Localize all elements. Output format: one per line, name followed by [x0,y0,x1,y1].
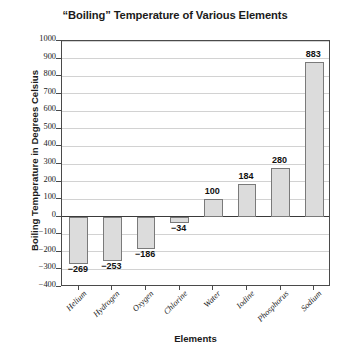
bar-value-label: 883 [290,49,336,59]
bar-chart-figure: “Boiling” Temperature of Various Element… [0,0,350,351]
gridline [62,146,329,147]
y-tick-label: −300 [16,262,56,271]
bar-value-label: −34 [156,223,202,233]
bar [271,168,290,217]
x-axis-title: Elements [61,333,330,344]
y-tick-label: 900 [16,52,56,61]
x-tick-mark [212,286,213,290]
bar [305,62,324,217]
y-tick-mark [56,58,61,59]
y-tick-mark [56,181,61,182]
y-tick-label: 100 [16,192,56,201]
y-tick-label: −100 [16,227,56,236]
gridline [62,76,329,77]
y-tick-label: 500 [16,122,56,131]
y-tick-mark [56,40,61,41]
bar-value-label: −186 [122,249,168,259]
y-tick-mark [56,233,61,234]
bar-value-label: −253 [88,261,134,271]
x-tick-mark [313,286,314,290]
gridline [62,128,329,129]
y-tick-label: 700 [16,87,56,96]
y-tick-mark [56,216,61,217]
y-tick-label: 200 [16,175,56,184]
x-tick-mark [111,286,112,290]
y-tick-mark [56,75,61,76]
y-tick-label: 300 [16,157,56,166]
y-tick-label: 800 [16,69,56,78]
y-tick-label: 1000 [16,34,56,43]
y-tick-mark [56,128,61,129]
gridline [62,93,329,94]
x-tick-mark [179,286,180,290]
y-tick-mark [56,93,61,94]
y-tick-label: 400 [16,139,56,148]
bar [137,217,156,250]
y-tick-mark [56,198,61,199]
y-tick-mark [56,110,61,111]
bar-value-label: 184 [223,171,269,181]
y-tick-label: −400 [16,280,56,289]
y-tick-mark [56,145,61,146]
y-tick-label: 600 [16,104,56,113]
bar [69,217,88,264]
bar [238,184,257,216]
y-tick-label: −200 [16,245,56,254]
bar [204,199,223,217]
gridline [62,41,329,42]
x-tick-mark [246,286,247,290]
gridline [62,58,329,59]
y-tick-mark [56,251,61,252]
bar-value-label: 100 [189,186,235,196]
bar-value-label: 280 [257,155,303,165]
gridline [62,111,329,112]
chart-title: “Boiling” Temperature of Various Element… [0,9,350,21]
x-tick-mark [145,286,146,290]
x-tick-mark [78,286,79,290]
x-tick-mark [280,286,281,290]
y-tick-mark [56,286,61,287]
y-tick-label: 0 [16,210,56,219]
y-tick-mark [56,163,61,164]
bar [103,217,122,261]
